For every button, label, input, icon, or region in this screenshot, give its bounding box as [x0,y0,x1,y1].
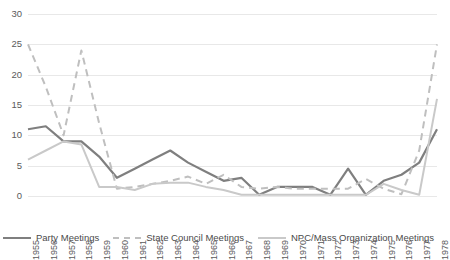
series-line-1 [28,44,437,194]
legend-label: Party Meetings [36,233,99,243]
series-lines [28,14,437,196]
legend-swatch-icon [258,237,286,239]
y-axis-tick-0: 0 [17,191,22,201]
plot-area: 051015202530 [28,14,437,196]
series-line-0 [28,126,437,195]
legend-item-2[interactable]: NPC/Mass Organization Meetings [258,233,434,243]
y-axis-tick-10: 10 [11,131,22,141]
legend-label: State Council Meetings [146,233,244,243]
legend-swatch-icon [113,237,141,239]
legend-item-0[interactable]: Party Meetings [3,233,99,243]
y-axis-tick-15: 15 [11,100,22,110]
y-axis-tick-5: 5 [17,161,22,171]
legend-swatch-icon [3,237,31,239]
legend-item-1[interactable]: State Council Meetings [113,233,244,243]
chart-legend: Party MeetingsState Council MeetingsNPC/… [0,228,437,247]
legend-label: NPC/Mass Organization Meetings [291,233,434,243]
x-axis-tick-1978: 1978 [441,240,450,260]
y-axis-tick-30: 30 [11,9,22,19]
y-axis-tick-20: 20 [11,70,22,80]
y-axis-tick-25: 25 [11,40,22,50]
